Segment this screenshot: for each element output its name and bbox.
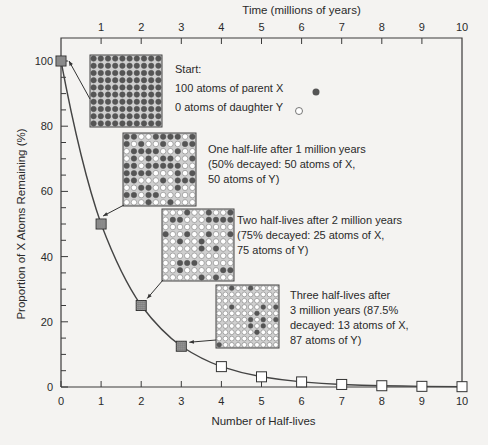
daughter-atom xyxy=(236,311,241,316)
daughter-atom xyxy=(223,336,228,341)
daughter-atom xyxy=(182,148,188,154)
daughter-atom xyxy=(261,342,266,347)
parent-atom xyxy=(190,134,196,140)
parent-atom xyxy=(175,170,181,176)
parent-atom xyxy=(127,63,132,68)
daughter-atom xyxy=(199,231,204,236)
parent-atom xyxy=(120,113,125,118)
parent-atom xyxy=(146,156,152,162)
daughter-atom xyxy=(242,342,247,347)
marker-square xyxy=(457,382,467,392)
daughter-atom xyxy=(192,217,197,222)
y-tick-label: 20 xyxy=(41,316,53,328)
top-tick-label: 5 xyxy=(258,21,264,33)
daughter-atom xyxy=(255,324,260,329)
daughter-atom xyxy=(182,170,188,176)
parent-atom xyxy=(98,106,103,111)
daughter-atom xyxy=(273,330,278,335)
daughter-atom xyxy=(182,200,188,206)
parent-atom xyxy=(98,121,103,126)
daughter-atom xyxy=(220,239,225,244)
parent-atom xyxy=(138,141,144,147)
data-point-marker xyxy=(176,341,186,351)
daughter-atom xyxy=(177,224,182,229)
data-point-marker xyxy=(337,379,347,389)
parent-atom xyxy=(217,342,222,347)
daughter-atom xyxy=(160,170,166,176)
parent-atom xyxy=(91,113,96,118)
annotation-arrow xyxy=(69,61,90,99)
daughter-atom xyxy=(131,185,137,191)
daughter-atom xyxy=(199,217,204,222)
parent-atom xyxy=(105,70,110,75)
daughter-atom xyxy=(217,305,222,310)
daughter-atom xyxy=(124,148,130,154)
daughter-atom xyxy=(220,210,225,215)
daughter-atom xyxy=(177,231,182,236)
daughter-atom xyxy=(213,260,218,265)
parent-atom xyxy=(112,70,117,75)
top-tick-label: 1 xyxy=(98,21,104,33)
annotation-text: Start: xyxy=(175,63,201,75)
daughter-atom xyxy=(261,292,266,297)
parent-atom xyxy=(112,63,117,68)
daughter-atom xyxy=(146,178,152,184)
daughter-atom xyxy=(182,192,188,198)
parent-atom xyxy=(120,56,125,61)
daughter-atom xyxy=(223,298,228,303)
parent-atom xyxy=(213,275,218,280)
parent-atom xyxy=(190,156,196,162)
y-tick-label: 40 xyxy=(41,251,53,263)
x-tick-label: 5 xyxy=(258,395,264,407)
daughter-atom xyxy=(242,317,247,322)
parent-atom xyxy=(148,92,153,97)
parent-atom xyxy=(261,317,266,322)
daughter-atom xyxy=(223,292,228,297)
daughter-atom xyxy=(199,224,204,229)
daughter-atom xyxy=(229,317,234,322)
parent-atom xyxy=(148,121,153,126)
daughter-atom xyxy=(255,286,260,291)
daughter-atom xyxy=(206,275,211,280)
parent-atom xyxy=(131,170,137,176)
daughter-atom xyxy=(182,156,188,162)
parent-atom xyxy=(160,134,166,140)
daughter-atom xyxy=(248,342,253,347)
parent-atom xyxy=(182,178,188,184)
parent-atom xyxy=(141,77,146,82)
parent-atom xyxy=(98,99,103,104)
daughter-atom xyxy=(175,200,181,206)
parent-atom xyxy=(170,217,175,222)
parent-atom xyxy=(148,106,153,111)
parent-atom xyxy=(131,134,137,140)
daughter-atom xyxy=(184,224,189,229)
atom-grid-2 xyxy=(162,209,234,281)
parent-atom xyxy=(148,113,153,118)
daughter-atom xyxy=(213,239,218,244)
daughter-atom xyxy=(199,210,204,215)
daughter-atom xyxy=(163,224,168,229)
marker-square xyxy=(96,219,106,229)
parent-atom xyxy=(127,106,132,111)
daughter-atom xyxy=(184,267,189,272)
daughter-atom xyxy=(248,305,253,310)
y-tick-label: 60 xyxy=(41,185,53,197)
parent-atom xyxy=(141,70,146,75)
daughter-atom xyxy=(273,286,278,291)
daughter-atom xyxy=(223,317,228,322)
daughter-atom xyxy=(217,286,222,291)
daughter-atom xyxy=(229,292,234,297)
atom-grid-3 xyxy=(216,285,279,348)
parent-atom xyxy=(153,163,159,169)
daughter-atom xyxy=(223,342,228,347)
parent-atom xyxy=(184,231,189,236)
daughter-atom xyxy=(236,298,241,303)
x-tick-label: 3 xyxy=(178,395,184,407)
parent-atom xyxy=(134,63,139,68)
parent-atom xyxy=(98,113,103,118)
annotation-text: (75% decayed: 25 atoms of X, xyxy=(237,229,384,241)
parent-atom xyxy=(146,148,152,154)
daughter-atom xyxy=(146,141,152,147)
parent-atom xyxy=(134,106,139,111)
parent-atom xyxy=(148,99,153,104)
